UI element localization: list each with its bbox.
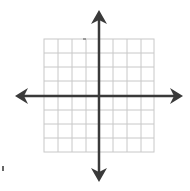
coordinate-plane — [0, 0, 190, 191]
stray-mark — [2, 166, 4, 171]
